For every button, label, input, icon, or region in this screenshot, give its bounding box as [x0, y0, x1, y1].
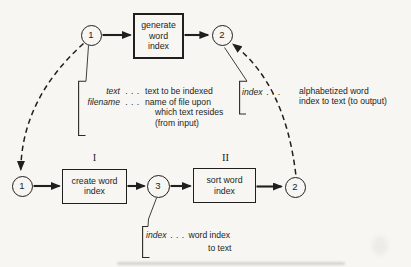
input-desc-1: text to be indexed — [145, 86, 213, 96]
scan-noise-patch — [372, 236, 388, 256]
connector-circle-3: 3 — [147, 175, 170, 198]
intermediate-desc-2: to text — [208, 243, 231, 253]
input-dots-2: . . . — [120, 97, 145, 107]
output-term-index: index — [242, 87, 263, 97]
intermediate-desc-1: word index — [189, 230, 231, 240]
stage-numeral-2: II — [218, 153, 233, 164]
input-note-line-1: text. . .text to be indexed — [72, 86, 213, 96]
input-desc-3: which text resides — [155, 107, 223, 117]
connector-circle-1-bottom: 1 — [12, 176, 33, 197]
input-note-line-3: which text resides — [155, 107, 223, 117]
connector-circle-1-top-label: 1 — [88, 30, 93, 40]
intermediate-term-index: index — [146, 230, 167, 240]
input-term-text: text — [72, 86, 120, 96]
output-dots: . . . — [263, 87, 285, 97]
intermediate-note-line-2: to text — [208, 243, 231, 253]
intermediate-note-line-1: index. . .word index — [146, 230, 230, 240]
connector-circle-2-bottom: 2 — [285, 177, 306, 198]
input-desc-4: (from input) — [155, 118, 199, 128]
process-box-create-word-index-label: create word index — [72, 176, 118, 197]
intermediate-dots: . . . — [167, 230, 189, 240]
stage-numeral-1: I — [88, 153, 101, 164]
process-box-create-word-index: create word index — [62, 169, 127, 204]
pointer-circle1top-to-input-note — [86, 46, 89, 82]
diagram-connectors — [0, 0, 411, 267]
input-dots-1: . . . — [120, 86, 145, 96]
output-note-term-row: index. . . — [242, 87, 285, 97]
connector-circle-3-label: 3 — [155, 181, 160, 191]
output-note-desc: alphabetized word index to text (to outp… — [299, 86, 387, 107]
connector-circle-1-bottom-label: 1 — [19, 181, 24, 191]
input-note-line-4: (from input) — [155, 118, 199, 128]
input-note-line-2: filename. . .name of file upon — [72, 97, 211, 107]
word-index-refinement-diagram: 1 2 1 3 2 generate word index create wor… — [0, 0, 411, 267]
cropped-caption-remnant — [117, 262, 345, 265]
input-term-filename: filename — [72, 97, 120, 107]
process-box-sort-word-index-label: sort word index — [206, 175, 242, 196]
connector-circle-1-top: 1 — [81, 25, 102, 46]
connector-circle-2-top: 2 — [212, 25, 233, 46]
pointer-circle3-to-intermediate-note — [148, 198, 157, 227]
connector-circle-2-top-label: 2 — [219, 30, 224, 40]
connector-circle-2-bottom-label: 2 — [292, 182, 297, 192]
dashed-curve-circle2-refinement — [233, 44, 296, 174]
process-box-sort-word-index: sort word index — [193, 168, 256, 203]
input-desc-2: name of file upon — [145, 97, 211, 107]
process-box-generate-word-index-label: generate word index — [141, 20, 176, 52]
process-box-generate-word-index: generate word index — [133, 13, 184, 59]
